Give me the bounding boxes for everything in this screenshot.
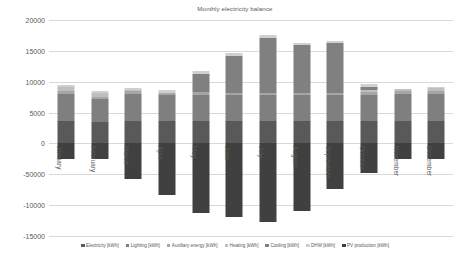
positive-stack[interactable]	[226, 53, 243, 143]
y-axis-tick-label: 5000	[29, 109, 45, 116]
positive-stack[interactable]	[91, 91, 108, 143]
bar-segment[interactable]	[293, 45, 310, 93]
x-axis-month-label: May	[191, 146, 198, 158]
bar-segment[interactable]	[125, 94, 142, 121]
bar-column[interactable]: September	[318, 20, 352, 236]
chart-legend: Electricity [kWh]Lighting [kWh]Auxiliary…	[0, 243, 470, 248]
positive-stack[interactable]	[428, 87, 445, 144]
positive-stack[interactable]	[327, 41, 344, 143]
legend-swatch-icon	[225, 244, 229, 248]
positive-stack[interactable]	[259, 35, 276, 144]
legend-item[interactable]: Electricity [kWh]	[81, 243, 119, 248]
legend-label: Lighting [kWh]	[131, 243, 160, 248]
bar-segment[interactable]	[226, 121, 243, 143]
positive-stack[interactable]	[360, 84, 377, 143]
x-axis-month-label: January	[56, 146, 63, 169]
bar-segment[interactable]	[226, 56, 243, 92]
positive-stack[interactable]	[125, 88, 142, 144]
positive-stack[interactable]	[192, 71, 209, 143]
legend-item[interactable]: Heating [kWh]	[225, 243, 259, 248]
y-axis-tick-label: 0	[41, 140, 45, 147]
legend-label: Electricity [kWh]	[86, 243, 119, 248]
y-axis-tick-label: -50000	[23, 171, 45, 178]
x-axis-month-label: November	[393, 146, 400, 176]
positive-stack[interactable]	[394, 89, 411, 144]
legend-item[interactable]: PV production [kWh]	[342, 243, 389, 248]
bar-segment[interactable]	[259, 95, 276, 121]
legend-item[interactable]: Auxiliary energy [kWh]	[167, 243, 218, 248]
bar-segment[interactable]	[394, 121, 411, 143]
bar-column[interactable]: December	[419, 20, 453, 236]
legend-swatch-icon	[342, 244, 346, 248]
bar-segment[interactable]	[259, 38, 276, 93]
legend-label: DHW [kWh]	[311, 243, 335, 248]
bar-segment[interactable]	[360, 121, 377, 143]
bar-segment[interactable]	[57, 121, 74, 143]
bar-segment[interactable]	[293, 121, 310, 143]
legend-label: Heating [kWh]	[230, 243, 259, 248]
legend-swatch-icon	[126, 244, 130, 248]
legend-label: Auxiliary energy [kWh]	[172, 243, 218, 248]
legend-swatch-icon	[306, 244, 310, 248]
legend-item[interactable]: DHW [kWh]	[306, 243, 335, 248]
positive-stack[interactable]	[293, 43, 310, 143]
legend-label: PV production [kWh]	[347, 243, 389, 248]
bar-segment[interactable]	[428, 121, 445, 143]
bar-segment[interactable]	[293, 95, 310, 121]
x-axis-month-label: July	[258, 146, 265, 158]
bar-segment[interactable]	[394, 94, 411, 121]
legend-swatch-icon	[265, 244, 269, 248]
y-axis-tick-label: -15000	[23, 233, 45, 240]
bar-segment[interactable]	[327, 121, 344, 143]
chart-title: Monthly electricity balance	[0, 5, 470, 12]
legend-swatch-icon	[167, 244, 171, 248]
bar-segment[interactable]	[91, 99, 108, 122]
y-axis-tick-label: -10000	[23, 202, 45, 209]
x-axis-month-label: April	[157, 146, 164, 159]
bar-segment[interactable]	[192, 121, 209, 143]
positive-stack[interactable]	[57, 85, 74, 144]
bar-column[interactable]: May	[184, 20, 218, 236]
bar-column[interactable]: June	[217, 20, 251, 236]
bar-segment[interactable]	[226, 95, 243, 121]
bar-segment[interactable]	[91, 122, 108, 143]
bar-segment[interactable]	[428, 94, 445, 121]
bar-segment[interactable]	[125, 121, 142, 144]
gridline	[49, 236, 453, 237]
bar-segment[interactable]	[360, 95, 377, 122]
legend-item[interactable]: Lighting [kWh]	[126, 243, 160, 248]
x-axis-month-label: August	[292, 146, 299, 167]
chart-container: Monthly electricity balance 200001500010…	[0, 0, 470, 269]
y-axis-tick-label: 10000	[26, 78, 45, 85]
x-axis-month-label: December	[426, 146, 433, 176]
bar-column[interactable]: February	[83, 20, 117, 236]
bar-column[interactable]: November	[386, 20, 420, 236]
bar-segment[interactable]	[158, 95, 175, 121]
x-axis-month-label: September	[325, 146, 332, 178]
bar-segment[interactable]	[259, 121, 276, 143]
x-axis-month-label: October	[359, 146, 366, 169]
bar-segment[interactable]	[327, 95, 344, 121]
x-axis-month-label: June	[224, 146, 231, 160]
bar-series-group: JanuaryFebruaryMarchAprilMayJuneJulyAugu…	[49, 20, 453, 236]
bar-segment[interactable]	[327, 43, 344, 93]
legend-swatch-icon	[81, 244, 85, 248]
bar-column[interactable]: January	[49, 20, 83, 236]
bar-segment[interactable]	[192, 95, 209, 122]
y-axis-tick-label: 15000	[26, 47, 45, 54]
bar-segment[interactable]	[158, 121, 175, 143]
legend-label: Cooling [kWh]	[270, 243, 299, 248]
bar-segment[interactable]	[57, 94, 74, 121]
bar-segment[interactable]	[192, 74, 209, 92]
bar-column[interactable]: August	[285, 20, 319, 236]
positive-stack[interactable]	[158, 90, 175, 143]
bar-column[interactable]: March	[116, 20, 150, 236]
bar-column[interactable]: October	[352, 20, 386, 236]
x-axis-month-label: March	[123, 146, 130, 164]
bar-column[interactable]: April	[150, 20, 184, 236]
legend-item[interactable]: Cooling [kWh]	[265, 243, 299, 248]
y-axis-tick-label: 20000	[26, 17, 45, 24]
bar-column[interactable]: July	[251, 20, 285, 236]
plot-area: 20000150001000050000-50000-10000-15000 J…	[49, 20, 453, 236]
x-axis-month-label: February	[90, 146, 97, 172]
